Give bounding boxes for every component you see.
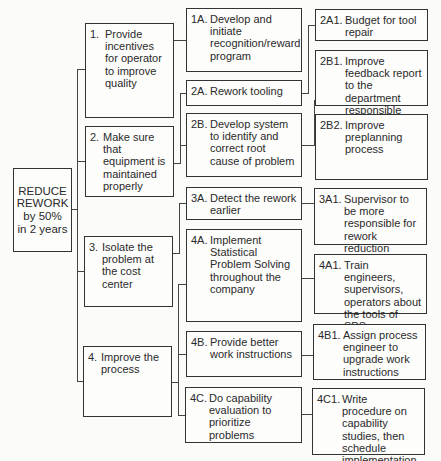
- level3-box-2A1: 2A1.Budget for tool repair: [315, 9, 428, 41]
- level3-box-4B1: 4B1.Assign process engineer to upgrade w…: [313, 324, 426, 380]
- level2-box-1A: 1A.Develop and initiate recognition/rewa…: [186, 8, 302, 72]
- level1-box-3: 3.Isolate the problem at the cost center: [84, 236, 173, 307]
- root-goal-text: REDUCE REWORK by 50% in 2 years: [17, 185, 69, 235]
- level2-box-3A: 3A.Detect the rework earlier: [186, 187, 302, 220]
- level2-box-2A: 2A.Rework tooling: [186, 80, 302, 106]
- level3-box-4A1: 4A1.Train engineers, supervisors, operat…: [314, 254, 427, 314]
- connector: [77, 69, 78, 382]
- level3-box-4C1: 4C1.Write procedure on capability studie…: [312, 388, 425, 455]
- level2-box-4A: 4A.Implement Statistical Problem Solving…: [186, 229, 302, 322]
- level1-box-2: 2.Make sure that equipment is maintained…: [85, 126, 174, 197]
- level1-box-1: 1.Provide incentives for operator to imp…: [85, 23, 174, 118]
- level2-box-4C: 4C.Do capability evaluation to prioritiz…: [185, 387, 302, 443]
- level2-box-2B: 2B.Develop system to identify and correc…: [186, 113, 302, 177]
- level3-box-2B2: 2B2.Improve preplanning process: [315, 114, 428, 180]
- level1-box-4: 4.Improve the process: [83, 346, 172, 417]
- level3-box-3A1: 3A1.Supervisor to be more responsible fo…: [314, 188, 427, 245]
- root-goal-box: REDUCE REWORK by 50% in 2 years: [13, 168, 72, 252]
- connector: [179, 203, 180, 254]
- connector: [178, 284, 179, 416]
- level2-box-4B: 4B.Provide better work instructions: [186, 331, 302, 377]
- connector: [180, 93, 181, 164]
- connector: [77, 69, 85, 70]
- connector: [77, 161, 85, 162]
- level3-box-2B1: 2B1.Improve feedback report to the depar…: [315, 50, 428, 106]
- connector: [308, 25, 309, 94]
